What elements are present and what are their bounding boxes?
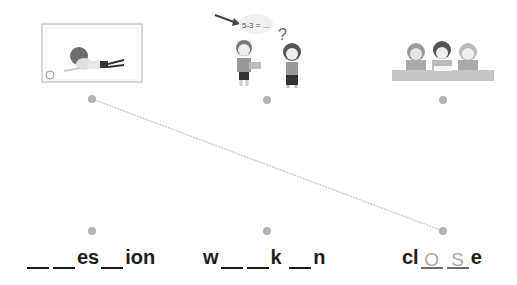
picture-studying-kids[interactable]	[392, 40, 494, 82]
letter-blank[interactable]	[53, 249, 75, 269]
letter-blank[interactable]	[221, 249, 243, 269]
picture-math-kids[interactable]: 5-3 = ... ?	[212, 6, 312, 90]
word-connector-dot-3[interactable]	[439, 227, 447, 235]
letter-blank-filled[interactable]: O	[421, 249, 443, 269]
picture-connector-dot-3[interactable]	[439, 96, 447, 104]
letter-blank[interactable]	[27, 249, 49, 269]
word-text: ion	[125, 246, 155, 269]
word-text: e	[471, 246, 482, 269]
svg-text:?: ?	[278, 26, 287, 43]
word-question: es ion	[25, 246, 155, 269]
word-text: k	[271, 246, 288, 269]
word-text: es	[77, 246, 99, 269]
picture-connector-dot-2[interactable]	[263, 96, 271, 104]
word-text: n	[313, 246, 325, 269]
word-connector-dot-1[interactable]	[88, 227, 96, 235]
letter-blank[interactable]	[289, 249, 311, 269]
word-connector-dot-2[interactable]	[263, 227, 271, 235]
picture-goalkeeper[interactable]	[40, 20, 144, 84]
word-close: cl O S e	[402, 246, 482, 269]
svg-text:5-3 = ...: 5-3 = ...	[242, 21, 269, 30]
letter-blank-filled[interactable]: S	[447, 249, 469, 269]
word-text: w	[203, 246, 219, 269]
picture-connector-dot-1[interactable]	[88, 95, 96, 103]
word-text: cl	[402, 246, 419, 269]
letter-blank[interactable]	[101, 249, 123, 269]
word-woken: w k n	[203, 246, 325, 269]
letter-blank[interactable]	[247, 249, 269, 269]
